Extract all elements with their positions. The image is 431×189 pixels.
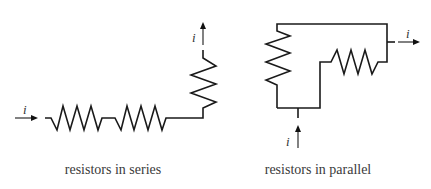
series-caption: resistors in series [65,162,161,177]
series-output-current-label: i [192,30,196,45]
parallel-caption: resistors in parallel [265,162,372,177]
parallel-input-current-label: i [286,134,290,149]
parallel-circuit: i i resistors in parallel [265,24,420,177]
series-output-arrow-icon [200,22,206,45]
series-input-current-label: i [23,102,27,117]
parallel-resistor-network [266,24,387,108]
series-resistor-chain [45,50,216,130]
series-circuit: i i resistors in series [15,22,216,177]
parallel-input-arrow-icon [295,125,301,148]
parallel-output-current-label: i [406,26,410,41]
circuit-diagram: i i resistors in series i i resistors in… [0,0,431,189]
